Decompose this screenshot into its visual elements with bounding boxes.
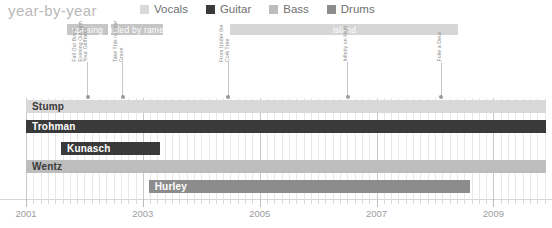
axis-tick-label: 2009 (483, 208, 504, 219)
timeline-bar[interactable]: Trohman (26, 120, 546, 133)
album-marker-label-line: Folie a Deux (437, 32, 443, 62)
axis-tick-minor (304, 199, 305, 204)
axis-tick-label: 2003 (132, 208, 153, 219)
axis-tick-label: 2007 (366, 208, 387, 219)
axis-tick-minor (150, 199, 151, 204)
axis-tick-label: 2005 (249, 208, 270, 219)
axis-tick-minor (369, 199, 370, 204)
axis-tick-minor (179, 199, 180, 204)
legend-label: Bass (283, 3, 309, 15)
timeline-bar[interactable]: Hurley (149, 180, 470, 193)
axis-tick-minor (515, 199, 516, 204)
axis-tick-minor (472, 199, 473, 204)
marker-stem (87, 62, 88, 98)
timeline-bar[interactable]: Kunasch (61, 142, 160, 155)
album-marker-label-line: Your Girlfriend (84, 21, 90, 62)
axis-tick-minor (479, 199, 480, 204)
axis-tick-minor (209, 199, 210, 204)
axis-tick-minor (84, 199, 85, 204)
axis-tick-minor (420, 199, 421, 204)
axis-tick-major (377, 199, 378, 207)
legend-swatch-icon (269, 5, 278, 14)
axis-tick-minor (238, 199, 239, 204)
axis-tick-minor (442, 199, 443, 204)
timeline-bar-label: Wentz (26, 161, 62, 172)
axis-tick-major (143, 199, 144, 207)
axis-tick-major (493, 199, 494, 207)
timeline-bar-label: Kunasch (61, 143, 111, 154)
axis-tick-minor (450, 199, 451, 204)
axis-tick-minor (464, 199, 465, 204)
album-marker-label: From Under theCork Tree (218, 24, 229, 62)
legend: VocalsGuitarBassDrums (140, 3, 375, 15)
axis-tick-minor (398, 199, 399, 204)
timeline-row: Stump (0, 100, 552, 113)
album-marker-label: Fall Out Boy'sEvening Out withYour Girlf… (73, 21, 90, 62)
axis-tick-major (26, 199, 27, 207)
axis-tick-minor (194, 199, 195, 204)
axis-tick-minor (501, 199, 502, 204)
axis-tick-minor (523, 199, 524, 204)
album-marker-label-line: Cork Tree (224, 24, 230, 62)
x-axis: 20012003200520072009 (0, 199, 552, 228)
axis-tick-minor (340, 199, 341, 204)
axis-tick-minor (77, 199, 78, 204)
axis-tick-minor (325, 199, 326, 204)
axis-tick-minor (362, 199, 363, 204)
marker-stem (228, 62, 229, 98)
axis-tick-minor (406, 199, 407, 204)
timeline-bar-label: Trohman (26, 121, 76, 132)
axis-tick-minor (48, 199, 49, 204)
album-marker-label: Folie a Deux (437, 32, 443, 62)
axis-tick-minor (106, 199, 107, 204)
album-marker-group: Fall Out Boy'sEvening Out withYour Girlf… (0, 36, 552, 98)
axis-tick-minor (201, 199, 202, 204)
marker-stem (347, 62, 348, 98)
axis-tick-minor (33, 199, 34, 204)
axis-tick-minor (230, 199, 231, 204)
axis-tick-minor (267, 199, 268, 204)
axis-tick-minor (311, 199, 312, 204)
axis-tick-minor (486, 199, 487, 204)
legend-swatch-icon (140, 5, 149, 14)
axis-tick-minor (508, 199, 509, 204)
axis-tick-minor (157, 199, 158, 204)
axis-tick-minor (172, 199, 173, 204)
axis-tick-minor (355, 199, 356, 204)
axis-tick-minor (55, 199, 56, 204)
timeline-row: Wentz (0, 160, 552, 173)
marker-stem (122, 62, 123, 98)
axis-tick-label: 2001 (15, 208, 36, 219)
axis-tick-minor (99, 199, 100, 204)
axis-tick-minor (530, 199, 531, 204)
axis-tick-minor (282, 199, 283, 204)
axis-tick-minor (333, 199, 334, 204)
axis-tick-minor (165, 199, 166, 204)
legend-label: Guitar (220, 3, 251, 15)
axis-tick-minor (384, 199, 385, 204)
page-title: year-by-year (8, 2, 97, 19)
legend-swatch-icon (206, 5, 215, 14)
chart-header: year-by-year VocalsGuitarBassDrums (0, 0, 552, 22)
marker-stem (441, 62, 442, 98)
axis-tick-minor (121, 199, 122, 204)
axis-tick-minor (413, 199, 414, 204)
album-marker-label-line: Grave (119, 21, 125, 62)
axis-tick-minor (114, 199, 115, 204)
axis-tick-minor (289, 199, 290, 204)
axis-tick-minor (136, 199, 137, 204)
timeline-bar[interactable]: Wentz (26, 160, 546, 173)
axis-tick-major (260, 199, 261, 207)
legend-label: Drums (341, 3, 375, 15)
axis-tick-minor (252, 199, 253, 204)
axis-tick-minor (41, 199, 42, 204)
axis-tick-minor (347, 199, 348, 204)
axis-tick-minor (296, 199, 297, 204)
axis-tick-minor (245, 199, 246, 204)
legend-item-guitar: Guitar (206, 3, 251, 15)
timeline-bar[interactable]: Stump (26, 100, 546, 113)
timeline-plot: StumpTrohmanKunaschWentzHurley (0, 98, 552, 199)
axis-tick-minor (128, 199, 129, 204)
album-marker-label-line: Infinity on High (344, 26, 350, 62)
axis-tick-minor (70, 199, 71, 204)
